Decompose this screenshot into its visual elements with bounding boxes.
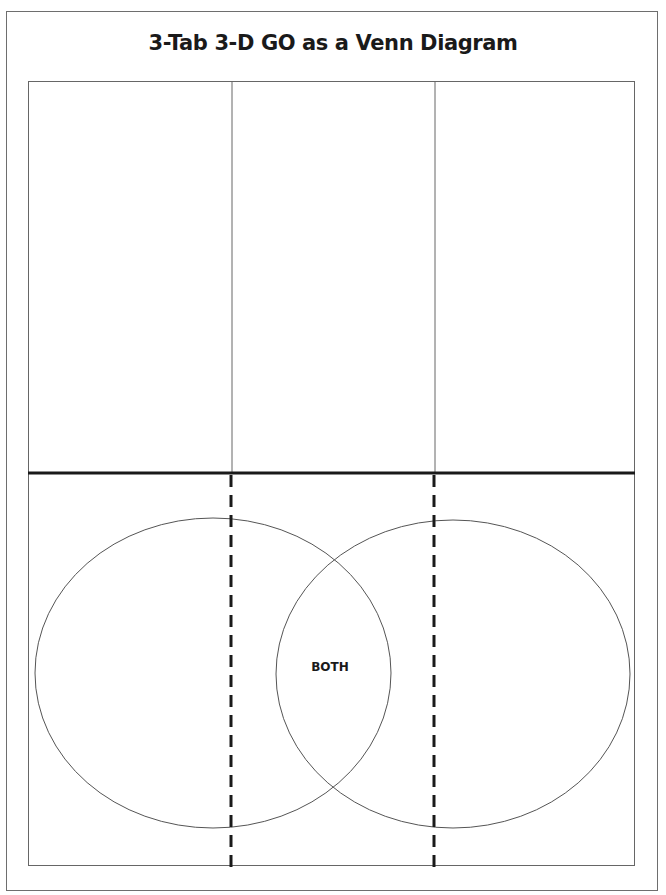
venn-overlap-label: BOTH: [300, 659, 360, 675]
venn-organizer: [0, 0, 666, 895]
